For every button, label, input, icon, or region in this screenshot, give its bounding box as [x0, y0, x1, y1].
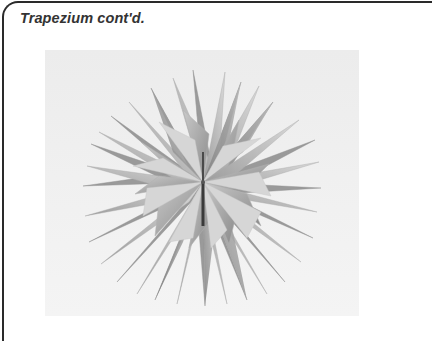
- page-title: Trapezium cont'd.: [20, 10, 145, 26]
- origami-star-photo: [45, 50, 359, 316]
- origami-star-icon: [45, 50, 359, 316]
